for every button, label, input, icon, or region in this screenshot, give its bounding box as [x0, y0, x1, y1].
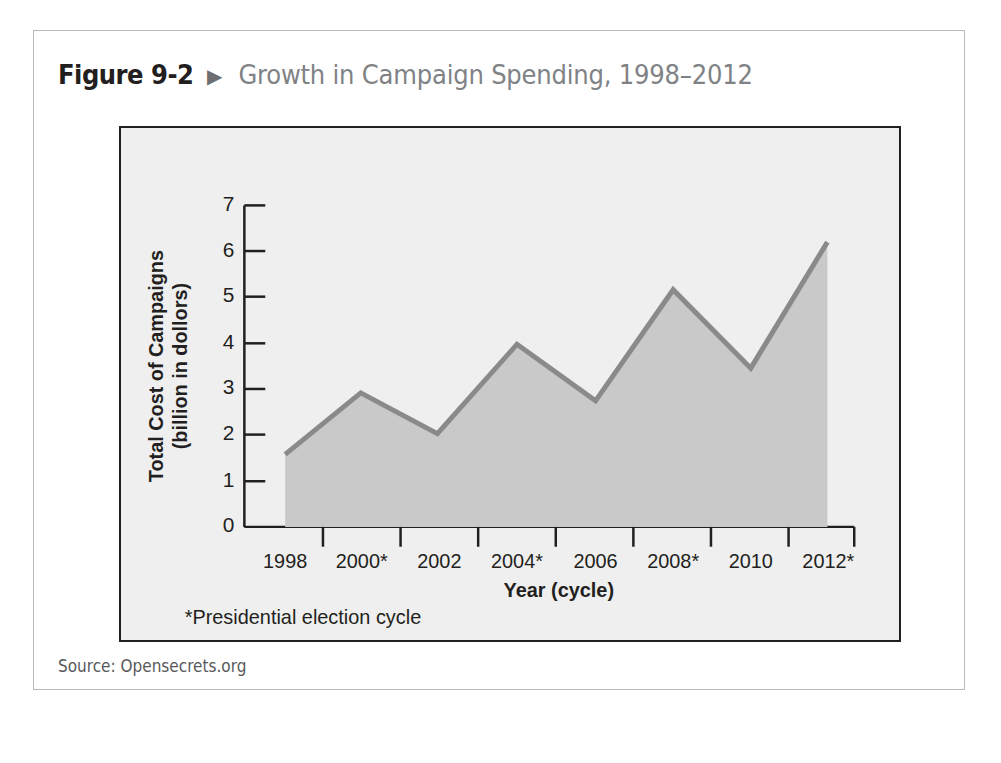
figure-number: Figure 9-2 [58, 59, 193, 90]
chart-footnote: *Presidential election cycle [185, 606, 422, 628]
series-total-cost-of-campaigns [285, 242, 827, 527]
area-fill [285, 242, 827, 527]
x-tick-label: 2004* [491, 550, 543, 572]
y-tick-label: 6 [223, 238, 235, 261]
y-tick-label: 3 [223, 375, 235, 398]
y-tick-label: 4 [223, 330, 235, 353]
x-tick-label: 1998 [263, 550, 307, 572]
chart-plot-panel: 7 6 5 4 3 2 1 0 Total Cost of Campaigns … [119, 126, 901, 642]
x-tick-label: 2010 [729, 550, 773, 572]
y-tick-label: 5 [223, 283, 235, 306]
page-title: Growth in Campaign Spending, 1998–2012 [238, 59, 752, 90]
y-tick-label: 7 [223, 192, 235, 215]
y-axis-ticks [244, 205, 265, 481]
figure-card: Figure 9-2 ▶ Growth in Campaign Spending… [33, 30, 965, 690]
x-axis-ticks [323, 527, 854, 547]
y-axis-title-line2: (billion in dollors) [169, 283, 191, 449]
x-tick-label: 2008* [647, 550, 699, 572]
x-tick-label: 2002 [417, 550, 461, 572]
x-tick-label: 2006 [573, 550, 617, 572]
y-tick-label: 2 [223, 421, 235, 444]
triangle-right-icon: ▶ [207, 66, 222, 86]
area-chart: 7 6 5 4 3 2 1 0 Total Cost of Campaigns … [121, 128, 899, 640]
x-tick-label: 2012* [802, 550, 854, 572]
source-citation: Source: Opensecrets.org [58, 656, 246, 676]
y-tick-label: 0 [223, 513, 235, 536]
y-axis-title-line1: Total Cost of Campaigns [145, 250, 167, 482]
figure-caption: Figure 9-2 ▶ Growth in Campaign Spending… [58, 59, 753, 90]
x-tick-label: 2000* [336, 550, 388, 572]
x-axis-title: Year (cycle) [503, 579, 614, 601]
y-tick-label: 1 [223, 468, 235, 491]
